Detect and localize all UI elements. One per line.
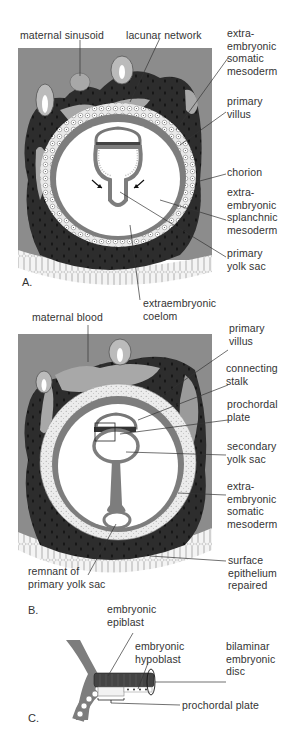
label-remnant-primary-yolk-sac: remnant of primary yolk sac bbox=[28, 565, 105, 590]
label-primary-yolk-sac: primary yolk sac bbox=[227, 247, 266, 272]
secondary-yolk-sac bbox=[94, 430, 138, 462]
label-embryonic-epiblast: embryonic epiblast bbox=[107, 603, 156, 628]
label-extraembryonic-coelom: extraembryonic coelom bbox=[143, 297, 216, 322]
label-maternal-sinusoid: maternal sinusoid bbox=[20, 29, 104, 42]
label-maternal-blood: maternal blood bbox=[32, 311, 103, 324]
label-extraembryonic-somatic-mesoderm-b: extra- embryonic somatic mesoderm bbox=[227, 480, 277, 530]
label-secondary-yolk-sac: secondary yolk sac bbox=[227, 440, 276, 465]
label-embryonic-hypoblast: embryonic hypoblast bbox=[135, 640, 184, 665]
label-connecting-stalk: connecting stalk bbox=[226, 362, 278, 387]
panel-letter-b: B. bbox=[28, 604, 38, 616]
label-prochordal-plate-b: prochordal plate bbox=[227, 398, 278, 423]
prochordal-bracket bbox=[98, 698, 124, 703]
label-extraembryonic-splanchnic-mesoderm: extra- embryonic splanchnic mesoderm bbox=[227, 186, 278, 236]
label-primary-villus-b: primary villus bbox=[229, 322, 265, 347]
label-bilaminar-embryonic-disc: bilaminar embryonic disc bbox=[226, 640, 275, 678]
panel-letter-a: A. bbox=[22, 276, 32, 288]
label-chorion: chorion bbox=[227, 166, 262, 179]
panel-a-diagram bbox=[18, 38, 228, 300]
panel-b-diagram bbox=[18, 325, 228, 575]
prochordal-plate-cells bbox=[98, 687, 124, 696]
panel-letter-c: C. bbox=[28, 712, 39, 724]
label-surface-epithelium-repaired: surface epithelium repaired bbox=[228, 554, 277, 592]
label-primary-villus-a: primary villus bbox=[227, 95, 263, 120]
label-lacunar-network: lacunar network bbox=[126, 29, 202, 42]
label-prochordal-plate-c: prochordal plate bbox=[182, 699, 259, 712]
label-extraembryonic-somatic-mesoderm-a: extra- embryonic somatic mesoderm bbox=[227, 27, 277, 77]
remnant-primary-yolk-sac bbox=[104, 512, 130, 528]
